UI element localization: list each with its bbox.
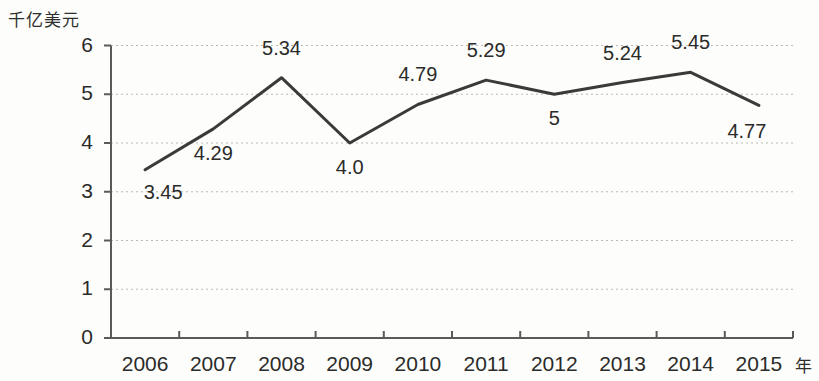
x-tick-label: 2007	[178, 352, 248, 376]
x-tick-label: 2006	[110, 352, 180, 376]
y-tick-label: 6	[63, 33, 93, 57]
line-chart-figure: 千亿美元 年 0123456 2006200720082009201020112…	[0, 0, 819, 381]
x-tick-label: 2015	[724, 352, 794, 376]
data-point-label: 3.45	[133, 181, 193, 204]
chart-canvas	[0, 0, 819, 381]
data-point-label: 4.79	[388, 63, 448, 86]
x-tick-label: 2014	[656, 352, 726, 376]
y-tick-label: 0	[63, 325, 93, 349]
x-tick-label: 2008	[247, 352, 317, 376]
x-tick-label: 2009	[315, 352, 385, 376]
data-point-label: 5.34	[252, 37, 312, 60]
y-tick-label: 1	[63, 276, 93, 300]
y-tick-label: 5	[63, 81, 93, 105]
data-point-label: 5.45	[661, 31, 721, 54]
data-point-label: 4.29	[183, 142, 243, 165]
gridlines	[111, 46, 793, 290]
x-tick-label: 2012	[519, 352, 589, 376]
y-tick-label: 2	[63, 228, 93, 252]
y-tick-label: 3	[63, 179, 93, 203]
x-tick-label: 2013	[588, 352, 658, 376]
x-tick-label: 2010	[383, 352, 453, 376]
y-tick-label: 4	[63, 130, 93, 154]
x-tick-label: 2011	[451, 352, 521, 376]
data-point-label: 5.29	[456, 39, 516, 62]
data-point-label: 5.24	[593, 42, 653, 65]
data-point-label: 4.77	[717, 120, 777, 143]
data-point-label: 5	[524, 107, 584, 130]
data-point-label: 4.0	[320, 156, 380, 179]
